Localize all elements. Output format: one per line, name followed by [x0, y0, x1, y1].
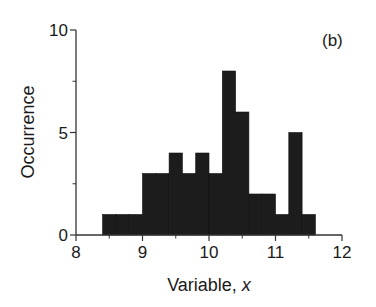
histogram-bar	[276, 215, 289, 236]
x-axis-title: Variable, x	[167, 275, 252, 295]
x-tick-label: 10	[200, 243, 219, 262]
y-axis-ticks: 0510	[49, 21, 76, 245]
histogram-bar	[129, 215, 142, 236]
y-tick-label: 10	[49, 21, 68, 40]
histogram-chart: 89101112 0510 Occurrence Variable, x (b)	[0, 0, 376, 307]
x-axis-ticks: 89101112	[71, 235, 351, 262]
x-tick-label: 11	[267, 243, 285, 262]
x-axis-title-prefix: Variable,	[167, 275, 242, 295]
y-axis-title: Occurrence	[18, 85, 38, 178]
y-tick-label: 0	[59, 226, 68, 245]
histogram-bar	[209, 174, 222, 236]
histogram-bar	[222, 71, 235, 235]
histogram-bar	[249, 194, 262, 235]
histogram-bar	[289, 133, 302, 236]
histogram-bar	[156, 174, 169, 236]
histogram-bars	[103, 71, 316, 235]
histogram-bar	[182, 174, 195, 236]
histogram-bar	[103, 215, 116, 236]
histogram-bar	[262, 194, 275, 235]
histogram-bar	[236, 112, 249, 235]
histogram-bar	[143, 174, 156, 236]
histogram-bar	[196, 153, 209, 235]
histogram-bar	[116, 215, 129, 236]
y-tick-label: 5	[59, 124, 68, 143]
x-tick-label: 12	[333, 243, 352, 262]
x-tick-label: 9	[138, 243, 147, 262]
x-tick-label: 8	[71, 243, 80, 262]
x-axis-title-variable: x	[241, 275, 252, 295]
histogram-bar	[302, 215, 315, 236]
panel-label: (b)	[322, 31, 343, 50]
histogram-bar	[169, 153, 182, 235]
